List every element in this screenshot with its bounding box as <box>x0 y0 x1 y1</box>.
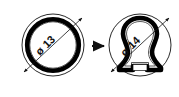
panel-undeformed-ring: ø 13 <box>22 14 84 76</box>
dimension-label-before: ø 13 <box>33 33 58 58</box>
figure-canvas: ø 13 ø 14 <box>0 0 179 97</box>
bottom-notch <box>133 65 147 71</box>
panel-deformed-ring: ø 14 <box>109 14 171 76</box>
deformation-figure: ø 13 ø 14 <box>0 0 179 97</box>
